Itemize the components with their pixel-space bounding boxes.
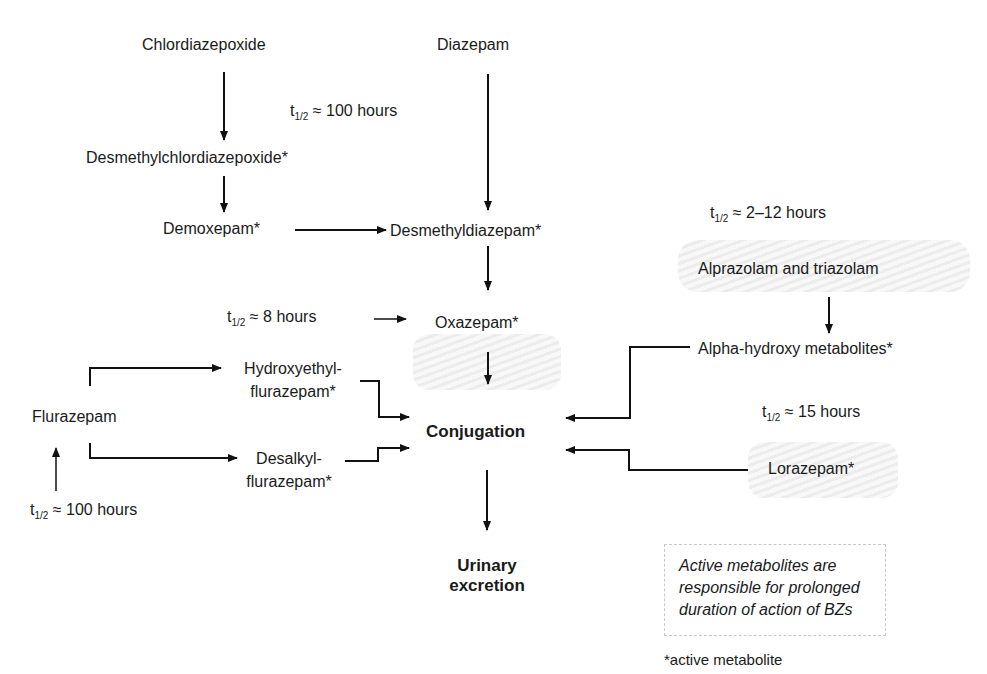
halflife-oxazepam: t1/2 ≈ 8 hours: [227, 307, 316, 333]
arrow-flurazepam-to-desalkyl: [90, 443, 237, 458]
halflife-flurazepam: t1/2 ≈ 100 hours: [30, 500, 137, 526]
node-chlordiazepoxide: Chlordiazepoxide: [142, 35, 266, 55]
node-desalkylflurazepam-line1: Desalkyl-: [230, 449, 348, 469]
node-urinary-excretion-line2: excretion: [432, 576, 542, 596]
halflife-diazepam: t1/2 ≈ 100 hours: [290, 101, 397, 127]
arrow-lorazepam-to-conjugation: [566, 450, 748, 470]
node-hydroxyethylflurazepam-line2: flurazepam*: [226, 382, 360, 402]
note-line2: responsible for prolonged: [679, 577, 885, 599]
node-demoxepam: Demoxepam*: [163, 219, 260, 239]
node-alprazolam-triazolam: Alprazolam and triazolam: [698, 259, 879, 279]
node-alpha-hydroxy-metabolites: Alpha-hydroxy metabolites*: [698, 339, 893, 359]
note-box: Active metabolites are responsible for p…: [664, 544, 886, 636]
node-desmethylchlordiazepoxide: Desmethylchlordiazepoxide*: [86, 148, 288, 168]
arrow-alpha-hydroxy-to-conjugation: [566, 347, 690, 418]
node-desmethyldiazepam: Desmethyldiazepam*: [390, 221, 541, 241]
node-oxazepam: Oxazepam*: [435, 313, 519, 333]
node-diazepam: Diazepam: [437, 35, 509, 55]
node-flurazepam: Flurazepam: [32, 407, 116, 427]
node-hydroxyethylflurazepam-line1: Hydroxyethyl-: [226, 359, 360, 379]
halflife-alprazolam: t1/2 ≈ 2–12 hours: [710, 203, 826, 229]
node-conjugation: Conjugation: [426, 422, 525, 442]
arrow-desalkyl-to-conjugation: [345, 448, 409, 461]
note-line3: duration of action of BZs: [679, 599, 885, 621]
note-line1: Active metabolites are: [679, 555, 885, 577]
node-desalkylflurazepam: Desalkyl- flurazepam*: [230, 449, 348, 492]
footnote: *active metabolite: [664, 650, 782, 670]
halflife-lorazepam: t1/2 ≈ 15 hours: [762, 402, 860, 428]
node-urinary-excretion-line1: Urinary: [432, 556, 542, 576]
node-hydroxyethylflurazepam: Hydroxyethyl- flurazepam*: [226, 359, 360, 402]
arrow-hydroxyethyl-to-conjugation: [360, 381, 409, 417]
node-desalkylflurazepam-line2: flurazepam*: [230, 472, 348, 492]
arrow-flurazepam-to-hydroxyethyl: [90, 368, 221, 386]
node-urinary-excretion: Urinary excretion: [432, 556, 542, 596]
node-lorazepam: Lorazepam*: [768, 459, 854, 479]
